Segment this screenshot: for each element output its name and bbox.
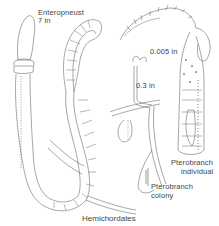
pterobranch-individual-label-line1: Pterobranch: [171, 159, 213, 167]
pterobranch-individual-drawing: [120, 5, 210, 155]
hemichordates-illustration: [0, 0, 219, 226]
pterobranch-individual-label-line2: individual: [181, 168, 213, 176]
pterobranch-individual-size-label: 0.005 in: [150, 48, 178, 56]
pterobranch-colony-label-line1: Pterobranch: [151, 183, 193, 191]
figure-caption: Hemichordates: [82, 214, 136, 223]
pterobranch-colony-drawing: [110, 56, 166, 193]
pterobranch-colony-size-label: 0.3 in: [136, 82, 155, 90]
pterobranch-colony-label-line2: colony: [151, 192, 173, 200]
enteropneust-size-label: 7 in: [38, 17, 51, 25]
hemichordates-figure: Enteropneust 7 in 0.005 in 0.3 in Pterob…: [0, 0, 219, 226]
enteropneust-drawing: [14, 16, 136, 214]
